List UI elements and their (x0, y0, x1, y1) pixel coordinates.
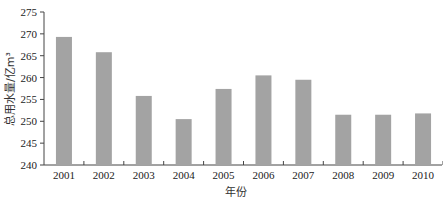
y-tick-label: 275 (21, 6, 38, 18)
x-tick-label: 2009 (372, 169, 395, 181)
y-axis: 240245250255260265270275 (21, 6, 45, 171)
bar-chart: 240245250255260265270275 200120022003200… (0, 0, 443, 205)
y-tick-label: 265 (21, 50, 38, 62)
bar-2010 (415, 113, 431, 165)
bar-2006 (255, 75, 271, 165)
y-tick-label: 250 (21, 115, 38, 127)
x-tick-label: 2001 (53, 169, 75, 181)
x-tick-label: 2007 (292, 169, 315, 181)
y-tick-label: 245 (21, 137, 38, 149)
bar-2003 (136, 96, 152, 165)
bar-2005 (216, 89, 232, 165)
bar-2004 (176, 119, 192, 165)
bars (56, 37, 431, 165)
x-tick-label: 2004 (173, 169, 196, 181)
x-tick-label: 2003 (133, 169, 156, 181)
bar-2008 (335, 115, 351, 165)
y-tick-label: 260 (21, 72, 38, 84)
bar-2002 (96, 52, 112, 165)
x-tick-label: 2006 (252, 169, 275, 181)
y-tick-label: 255 (21, 93, 38, 105)
bar-2007 (295, 80, 311, 165)
bar-2001 (56, 37, 72, 165)
y-tick-label: 240 (21, 159, 38, 171)
x-tick-label: 2002 (93, 169, 115, 181)
x-tick-label: 2010 (412, 169, 435, 181)
bar-2009 (375, 115, 391, 165)
x-axis-title: 年份 (225, 185, 247, 199)
y-axis-title: 总用水量/亿m³ (3, 52, 17, 126)
x-tick-label: 2008 (332, 169, 355, 181)
x-tick-label: 2005 (213, 169, 236, 181)
y-tick-label: 270 (21, 28, 38, 40)
